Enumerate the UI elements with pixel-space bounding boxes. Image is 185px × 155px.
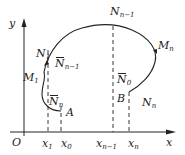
- label-base: N: [142, 96, 152, 109]
- label-sub: n: [152, 102, 157, 110]
- label-B: B: [117, 93, 125, 104]
- label-base: N: [55, 58, 65, 69]
- tick-x0: x0: [61, 138, 72, 151]
- label-base: M: [23, 71, 34, 84]
- label-M-n: Mn: [158, 40, 174, 53]
- label-N-1: N1: [36, 48, 50, 61]
- x-axis-arrow-icon: [166, 130, 176, 135]
- x-axis-label: x: [166, 137, 172, 148]
- label-sub: n−1: [65, 63, 80, 71]
- label-sub: 1: [46, 53, 50, 61]
- label-barN-n-1: Nn−1: [55, 58, 79, 71]
- label-base: N: [110, 5, 120, 18]
- label-sub: 1: [48, 143, 52, 151]
- y-axis-arrow-icon: [22, 18, 27, 27]
- label-N-n: Nn: [142, 97, 156, 110]
- diagram-canvas: y x O Nn−1 Mn N1 Nn−1 M1 Nn A N0 B Nn x1…: [0, 0, 185, 155]
- label-N-n-1: Nn−1: [110, 6, 134, 19]
- label-sub: n−1: [120, 11, 135, 19]
- y-axis-label: y: [9, 18, 15, 29]
- label-sub: 1: [34, 77, 38, 85]
- label-sub: 0: [67, 143, 71, 151]
- tick-xn-1: xn−1: [96, 138, 117, 151]
- tick-x1: x1: [42, 138, 53, 151]
- label-barN-0: N0: [117, 74, 131, 87]
- origin-label: O: [12, 137, 21, 148]
- label-sub: n: [134, 143, 139, 151]
- label-base: M: [158, 39, 169, 52]
- label-A: A: [66, 107, 74, 118]
- label-base: N: [117, 74, 127, 85]
- label-sub: n: [59, 101, 64, 109]
- label-barN-n: Nn: [49, 96, 63, 109]
- label-sub: n−1: [102, 143, 117, 151]
- label-sub: 0: [127, 79, 131, 87]
- label-sub: n: [169, 45, 174, 53]
- label-base: N: [36, 47, 46, 60]
- label-base: N: [49, 96, 59, 107]
- label-M-1: M1: [23, 72, 39, 85]
- tick-xn: xn: [128, 138, 139, 151]
